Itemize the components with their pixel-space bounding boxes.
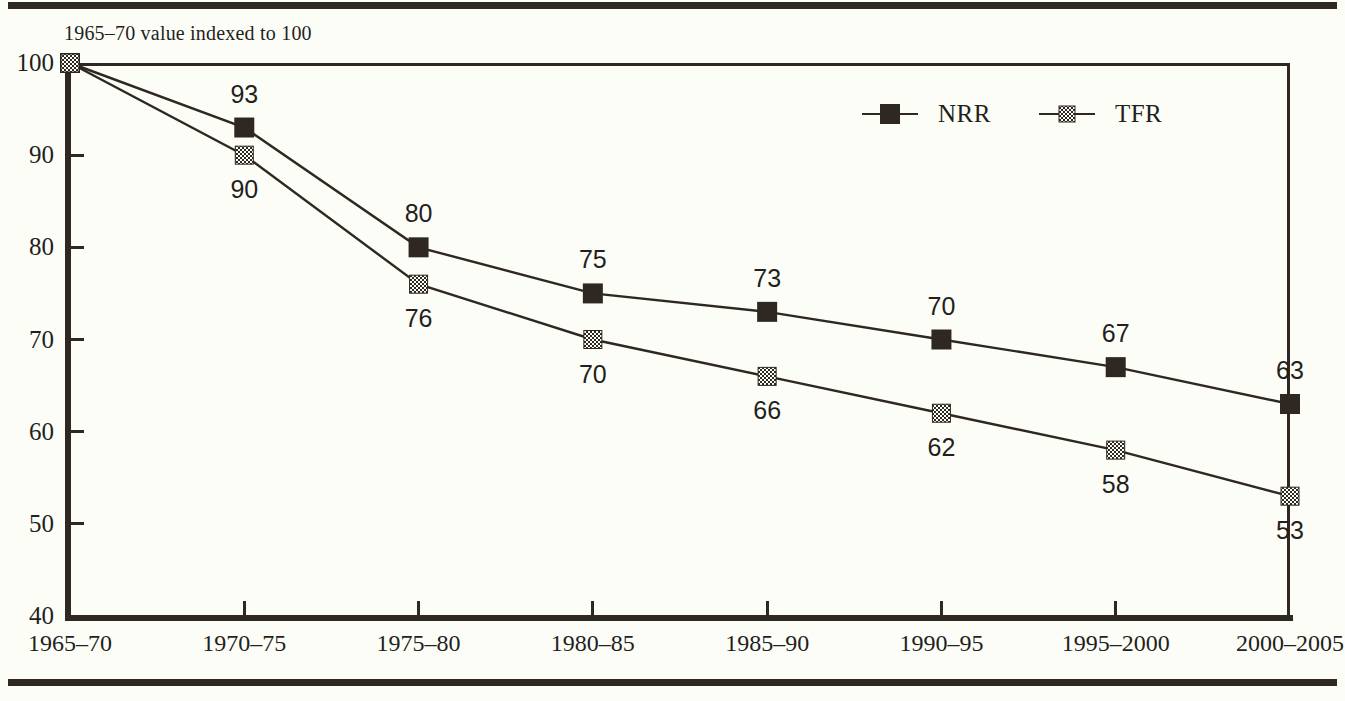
x-tick-label: 1985–90 bbox=[725, 630, 809, 657]
data-label-nrr-1: 93 bbox=[230, 79, 258, 108]
y-tick-label: 90 bbox=[29, 141, 54, 169]
x-tick-label: 1990–95 bbox=[899, 630, 983, 657]
data-point-nrr-2 bbox=[409, 237, 429, 257]
legend-item-nrr[interactable]: NRR bbox=[860, 100, 991, 128]
data-point-tfr-0 bbox=[61, 54, 79, 72]
y-tick-label: 100 bbox=[17, 49, 55, 77]
y-tick-label: 70 bbox=[29, 326, 54, 354]
data-label-tfr-7: 53 bbox=[1276, 516, 1304, 545]
legend-item-tfr[interactable]: TFR bbox=[1037, 100, 1162, 128]
legend-label-nrr: NRR bbox=[938, 100, 991, 128]
data-point-nrr-4 bbox=[757, 302, 777, 322]
data-point-nrr-3 bbox=[583, 283, 603, 303]
top-rule bbox=[8, 2, 1337, 9]
data-label-tfr-4: 66 bbox=[753, 396, 781, 425]
x-tick-label: 1975–80 bbox=[377, 630, 461, 657]
x-tick-label: 1965–70 bbox=[28, 630, 112, 657]
data-point-tfr-6 bbox=[1107, 441, 1125, 459]
data-label-nrr-3: 75 bbox=[579, 245, 607, 274]
data-point-tfr-1 bbox=[235, 146, 253, 164]
x-tick-label: 2000–2005 bbox=[1236, 630, 1344, 657]
legend-label-tfr: TFR bbox=[1115, 100, 1162, 128]
data-label-tfr-6: 58 bbox=[1102, 470, 1130, 499]
data-point-tfr-3 bbox=[584, 331, 602, 349]
data-label-nrr-6: 67 bbox=[1102, 319, 1130, 348]
x-tick-label: 1970–75 bbox=[202, 630, 286, 657]
data-label-nrr-2: 80 bbox=[405, 199, 433, 228]
data-point-nrr-6 bbox=[1106, 357, 1126, 377]
data-label-tfr-3: 70 bbox=[579, 359, 607, 388]
y-tick-label: 40 bbox=[29, 602, 54, 630]
x-tick-label: 1995–2000 bbox=[1062, 630, 1170, 657]
data-point-tfr-2 bbox=[410, 275, 428, 293]
y-tick-label: 50 bbox=[29, 510, 54, 538]
y-tick-label: 80 bbox=[29, 233, 54, 261]
legend-marker-tfr-icon bbox=[1037, 101, 1097, 127]
chart-page: 1965–70 value indexed to 100 40506070809… bbox=[0, 0, 1345, 701]
data-point-nrr-7 bbox=[1280, 394, 1300, 414]
plot-area: 405060708090100 938075737067639076706662… bbox=[70, 63, 1290, 616]
chart-subtitle: 1965–70 value indexed to 100 bbox=[64, 22, 312, 45]
data-point-tfr-5 bbox=[932, 404, 950, 422]
chart-legend: NRR TFR bbox=[860, 100, 1162, 128]
legend-marker-nrr-icon bbox=[860, 101, 920, 127]
data-label-tfr-5: 62 bbox=[928, 433, 956, 462]
data-point-nrr-1 bbox=[234, 118, 254, 138]
data-label-nrr-4: 73 bbox=[753, 263, 781, 292]
y-tick-label: 60 bbox=[29, 418, 54, 446]
data-label-tfr-1: 90 bbox=[230, 175, 258, 204]
x-tick-label: 1980–85 bbox=[551, 630, 635, 657]
data-label-nrr-5: 70 bbox=[928, 291, 956, 320]
data-label-tfr-2: 76 bbox=[405, 304, 433, 333]
bottom-rule bbox=[8, 679, 1337, 686]
data-label-nrr-7: 63 bbox=[1276, 356, 1304, 385]
data-point-tfr-7 bbox=[1281, 487, 1299, 505]
data-point-tfr-4 bbox=[758, 367, 776, 385]
data-point-nrr-5 bbox=[931, 330, 951, 350]
